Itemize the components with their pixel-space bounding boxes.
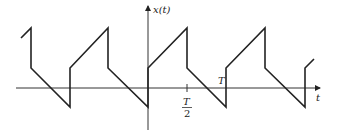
half-period-numerator: T (183, 96, 191, 107)
period-label: T (218, 75, 226, 86)
waveform-diagram: x(t) t T 2 T (0, 0, 338, 135)
t-axis-label: t (316, 92, 321, 103)
half-period-denominator: 2 (184, 108, 190, 119)
waveform-curve (21, 28, 314, 107)
y-axis-label: x(t) (153, 4, 171, 15)
